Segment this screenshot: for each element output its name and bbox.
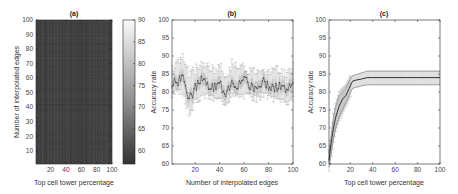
data-point — [268, 89, 269, 90]
data-point — [187, 98, 188, 99]
colorbar-tick-label: 60 — [138, 147, 146, 154]
heatmap-streak — [57, 20, 58, 164]
heatmap-streak — [36, 58, 112, 59]
colorbar-tick-label: 75 — [138, 82, 146, 89]
data-point — [213, 91, 214, 92]
heatmap-streak — [49, 20, 50, 164]
x-tick-label: 60 — [240, 166, 248, 173]
data-point — [214, 83, 215, 84]
data-point — [275, 83, 276, 84]
data-point — [279, 82, 280, 83]
data-point — [285, 92, 286, 93]
data-point — [220, 80, 221, 81]
panel-b-xlabel: Number of interpolated edges — [186, 179, 279, 187]
data-point — [179, 75, 180, 76]
data-point — [289, 83, 290, 84]
heatmap-streak — [69, 20, 70, 164]
data-point — [193, 88, 194, 89]
y-tick-label: 80 — [26, 45, 34, 52]
heatmap-streak — [36, 33, 112, 34]
data-point — [283, 85, 284, 86]
heatmap-streak — [82, 20, 83, 164]
panel-c-xlabel: Top cell tower percentage — [344, 179, 424, 187]
data-point — [190, 92, 191, 93]
data-point — [264, 81, 265, 82]
heatmap-streak — [106, 20, 107, 164]
data-point — [267, 81, 268, 82]
heatmap-streak — [36, 44, 112, 45]
data-point — [244, 76, 245, 77]
data-point — [176, 82, 177, 83]
y-tick-label: 70 — [26, 60, 34, 67]
data-point — [234, 87, 235, 88]
heatmap-streak — [36, 115, 112, 116]
y-tick-label: 95 — [319, 34, 327, 41]
data-point — [259, 86, 260, 87]
data-point — [229, 89, 230, 90]
colorbar-tick-label: 65 — [138, 125, 146, 132]
colorbar-tick-label: 80 — [138, 60, 146, 67]
data-point — [263, 77, 264, 78]
heatmap-streak — [45, 20, 46, 164]
panel-a-xlabel: Top cell tower percentage — [34, 179, 114, 187]
heatmap-streak — [36, 24, 112, 25]
x-tick-label: 60 — [78, 166, 86, 173]
data-point — [247, 82, 248, 83]
data-point — [209, 89, 210, 90]
data-point — [182, 75, 183, 76]
x-tick-label: 20 — [192, 166, 200, 173]
figure: (a) 102030405060708090100 20406080100 To… — [0, 0, 458, 194]
data-point — [224, 93, 225, 94]
data-point — [222, 92, 223, 93]
data-point — [290, 86, 291, 87]
heatmap-streak — [36, 105, 112, 106]
y-tick-label: 90 — [319, 52, 327, 59]
heatmap-streak — [68, 20, 69, 164]
heatmap-streak — [72, 20, 73, 164]
data-point — [178, 85, 179, 86]
data-point — [269, 86, 270, 87]
data-point — [255, 86, 256, 87]
data-point — [245, 77, 246, 78]
y-tick-label: 20 — [26, 133, 34, 140]
panel-b: (b) 6065707580859095100 20406080100 Numb… — [150, 10, 299, 187]
heatmap-streak — [36, 89, 112, 90]
heatmap-streak — [54, 20, 55, 164]
x-tick-label: 80 — [414, 166, 422, 173]
heatmap-streak — [70, 20, 71, 164]
y-tick-label: 60 — [26, 74, 34, 81]
heatmap-streak — [36, 122, 112, 123]
y-tick-label: 60 — [162, 160, 170, 167]
data-point — [191, 94, 192, 95]
data-point — [272, 84, 273, 85]
panel-c-title: (c) — [380, 10, 389, 18]
y-tick-label: 80 — [162, 88, 170, 95]
data-point — [261, 86, 262, 87]
x-tick-label: 40 — [62, 166, 70, 173]
data-point — [235, 86, 236, 87]
x-tick-label: 100 — [288, 166, 299, 173]
heatmap-streak — [36, 100, 112, 101]
y-tick-label: 50 — [26, 89, 34, 96]
colorbar-tick-label: 70 — [138, 103, 146, 110]
data-point — [174, 77, 175, 78]
heatmap-streak — [36, 97, 112, 98]
data-point — [208, 89, 209, 90]
heatmap-streak — [36, 134, 112, 135]
heatmap-streak — [36, 60, 112, 61]
data-point — [217, 83, 218, 84]
data-point — [228, 86, 229, 87]
data-point — [288, 90, 289, 91]
heatmap-streak — [86, 20, 87, 164]
data-point — [286, 88, 287, 89]
data-point — [186, 92, 187, 93]
heatmap-streak — [36, 119, 112, 120]
data-point — [173, 85, 174, 86]
y-tick-label: 75 — [162, 106, 170, 113]
data-point — [184, 81, 185, 82]
y-tick-label: 75 — [319, 106, 327, 113]
data-point — [233, 83, 234, 84]
panel-c-ylabel: Accuracy rate — [307, 70, 315, 113]
panel-c-y-ticks: 6065707580859095100 — [315, 16, 440, 167]
y-tick-label: 95 — [162, 34, 170, 41]
